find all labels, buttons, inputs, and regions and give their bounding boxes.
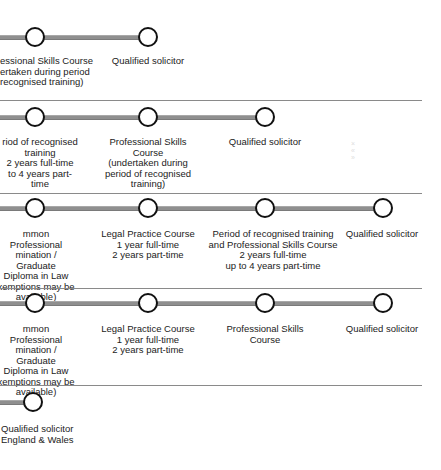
route-track-row-1 bbox=[0, 35, 148, 40]
route-node bbox=[255, 198, 275, 218]
node-title: Period of recognised training bbox=[203, 229, 343, 240]
route-track-row-3 bbox=[0, 206, 383, 211]
route-node bbox=[255, 107, 275, 127]
node-detail: training) bbox=[88, 179, 208, 190]
node-detail: mination / Graduate bbox=[0, 250, 76, 271]
node-detail: England & Wales bbox=[1, 435, 111, 446]
node-detail: 2 years full-time bbox=[203, 250, 343, 261]
route-node bbox=[25, 27, 45, 47]
node-label: Qualified solicitor bbox=[88, 56, 208, 67]
node-title: Legal Practice Course bbox=[88, 229, 208, 240]
node-title: Qualified solicitor bbox=[205, 137, 325, 148]
route-node bbox=[25, 107, 45, 127]
node-title: Professional Skills bbox=[88, 137, 208, 148]
node-title: Qualified solicitor bbox=[88, 56, 208, 67]
node-title: riod of recognised bbox=[0, 137, 80, 148]
route-node bbox=[373, 198, 393, 218]
node-detail: mination / Graduate bbox=[0, 345, 76, 366]
node-detail: recognised training) bbox=[0, 77, 110, 88]
node-title: Qualified solicitor bbox=[1, 424, 111, 435]
row-divider bbox=[0, 193, 422, 194]
node-title: Qualified solicitor bbox=[337, 229, 427, 240]
node-detail: Diploma in Law bbox=[0, 366, 76, 377]
node-detail: Diploma in Law bbox=[0, 271, 76, 282]
route-node bbox=[25, 293, 45, 313]
route-node bbox=[255, 293, 275, 313]
node-label: mmon Professional mination / Graduate Di… bbox=[0, 324, 76, 398]
route-node bbox=[23, 392, 43, 412]
node-label: riod of recognised training 2 years full… bbox=[0, 137, 80, 190]
route-node bbox=[138, 198, 158, 218]
node-detail: up to 4 years part-time bbox=[203, 261, 343, 272]
route-node bbox=[138, 293, 158, 313]
row-divider bbox=[0, 100, 422, 101]
node-label: mmon Professional mination / Graduate Di… bbox=[0, 229, 76, 303]
node-detail: (undertaken during bbox=[88, 158, 208, 169]
route-track-row-4 bbox=[0, 301, 383, 306]
node-detail: 2 years full-time bbox=[0, 158, 80, 169]
node-label: Professional Skills Course (undertaken d… bbox=[88, 137, 208, 190]
node-label: Qualified solicitor bbox=[337, 324, 427, 335]
node-title: Professional Skills bbox=[205, 324, 325, 335]
node-label: Qualified solicitor bbox=[205, 137, 325, 148]
row-divider bbox=[0, 288, 422, 289]
node-detail: 2 years part-time bbox=[88, 345, 208, 356]
row-divider bbox=[0, 385, 422, 386]
faint-mark: ×«» bbox=[351, 140, 355, 161]
node-title: mmon Professional bbox=[0, 229, 76, 250]
node-detail: to 4 years part-time bbox=[0, 169, 80, 190]
route-node bbox=[25, 198, 45, 218]
node-label: Qualified solicitor bbox=[337, 229, 427, 240]
node-title: mmon Professional bbox=[0, 324, 76, 345]
node-detail: Course bbox=[205, 335, 325, 346]
route-node bbox=[373, 293, 393, 313]
node-label: Legal Practice Course 1 year full-time 2… bbox=[88, 324, 208, 356]
route-node bbox=[138, 27, 158, 47]
node-detail: 2 years part-time bbox=[88, 250, 208, 261]
route-node bbox=[138, 107, 158, 127]
node-label: Legal Practice Course 1 year full-time 2… bbox=[88, 229, 208, 261]
node-label: Period of recognised training and Profes… bbox=[203, 229, 343, 271]
node-title: Qualified solicitor bbox=[337, 324, 427, 335]
node-title: Legal Practice Course bbox=[88, 324, 208, 335]
node-label: Qualified solicitor England & Wales bbox=[1, 424, 111, 445]
node-label: Professional Skills Course bbox=[205, 324, 325, 345]
